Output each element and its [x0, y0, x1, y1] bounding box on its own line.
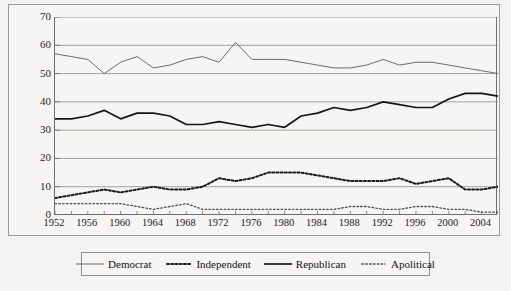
y-axis-tick-label: 40	[25, 96, 51, 107]
chart-figure-frame: 010203040506070 195219561960196419681972…	[8, 4, 500, 236]
legend-swatch-democrat-icon	[76, 260, 104, 268]
legend-item-independent: Independent	[164, 258, 250, 270]
chart-legend: DemocratIndependentRepublicanApolitical	[81, 252, 430, 276]
x-axis-tick-label: 2000	[437, 217, 458, 228]
series-line-democrat	[55, 42, 498, 73]
series-line-apolitical	[55, 204, 498, 212]
x-axis-tick-label: 1952	[44, 217, 65, 228]
x-axis-tick-labels: 1952195619601964196819721976198019841988…	[54, 217, 499, 235]
legend-item-apolitical: Apolitical	[359, 258, 435, 270]
y-axis-tick-label: 70	[25, 11, 51, 22]
x-axis-tick-label: 1964	[142, 217, 163, 228]
x-axis-tick-label: 1956	[76, 217, 97, 228]
plot-area	[54, 17, 497, 215]
y-axis-tick-labels: 010203040506070	[17, 5, 51, 220]
x-axis-tick-label: 1988	[339, 217, 360, 228]
y-axis-tick-label: 60	[25, 39, 51, 50]
x-axis-tick-label: 1968	[175, 217, 196, 228]
legend-item-republican: Republican	[264, 258, 346, 270]
legend-item-democrat: Democrat	[76, 258, 151, 270]
x-axis-tick-label: 1984	[306, 217, 327, 228]
series-line-republican	[55, 93, 498, 127]
y-axis-tick-label: 50	[25, 68, 51, 79]
x-axis-tick-label: 1960	[109, 217, 130, 228]
legend-entries: DemocratIndependentRepublicanApolitical	[82, 253, 429, 275]
legend-label: Republican	[296, 258, 346, 270]
x-axis-tick-label: 1972	[208, 217, 229, 228]
x-axis-tick-label: 2004	[470, 217, 491, 228]
legend-swatch-republican-icon	[264, 260, 292, 268]
x-axis-tick-label: 1980	[273, 217, 294, 228]
y-axis-tick-label: 20	[25, 152, 51, 163]
legend-label: Democrat	[108, 258, 151, 270]
y-axis-tick-label: 10	[25, 181, 51, 192]
legend-label: Apolitical	[391, 258, 435, 270]
legend-swatch-independent-icon	[164, 260, 192, 268]
x-axis-tick-label: 1996	[404, 217, 425, 228]
y-axis-tick-label: 30	[25, 124, 51, 135]
x-axis-tick-label: 1976	[240, 217, 261, 228]
legend-swatch-apolitical-icon	[359, 260, 387, 268]
x-axis-tick-label: 1992	[372, 217, 393, 228]
series-line-independent	[55, 173, 498, 198]
chart-lines-svg	[55, 17, 498, 215]
legend-label: Independent	[196, 258, 250, 270]
